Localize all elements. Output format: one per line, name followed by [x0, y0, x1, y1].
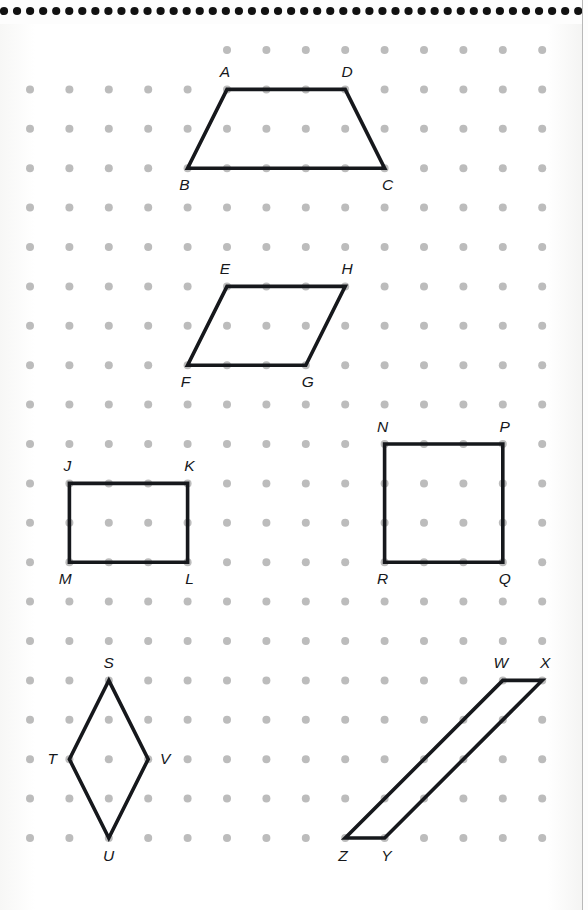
vertex-label-a: A: [220, 65, 231, 81]
vertex-label-c: C: [382, 177, 393, 193]
vertex-label-h: H: [341, 262, 352, 278]
vertex-label-z: Z: [338, 848, 348, 864]
vertex-label-j: J: [63, 459, 71, 475]
vertex-label-n: N: [377, 419, 388, 435]
worksheet-page: ADCBEHGFJKLMNPQRSVUTWXYZ: [0, 0, 588, 910]
vertex-label-k: K: [184, 459, 195, 475]
vertex-label-m: M: [59, 571, 72, 587]
vertex-label-w: W: [493, 656, 508, 672]
vertex-label-t: T: [48, 751, 58, 767]
vertex-label-r: R: [377, 571, 388, 587]
vertex-label-f: F: [181, 374, 191, 390]
vertex-label-b: B: [179, 177, 190, 193]
vertex-label-u: U: [103, 848, 114, 864]
vertex-label-q: Q: [499, 571, 511, 587]
vertex-label-x: X: [540, 656, 551, 672]
vertex-label-v: V: [160, 751, 171, 767]
vertex-label-l: L: [185, 571, 194, 587]
vertex-label-e: E: [220, 262, 231, 278]
vertex-labels-layer: ADCBEHGFJKLMNPQRSVUTWXYZ: [0, 0, 588, 910]
vertex-label-y: Y: [381, 848, 392, 864]
vertex-label-d: D: [341, 65, 352, 81]
page-edge-rule: [582, 0, 583, 910]
vertex-label-g: G: [302, 374, 314, 390]
vertex-label-s: S: [104, 656, 115, 672]
vertex-label-p: P: [500, 419, 511, 435]
